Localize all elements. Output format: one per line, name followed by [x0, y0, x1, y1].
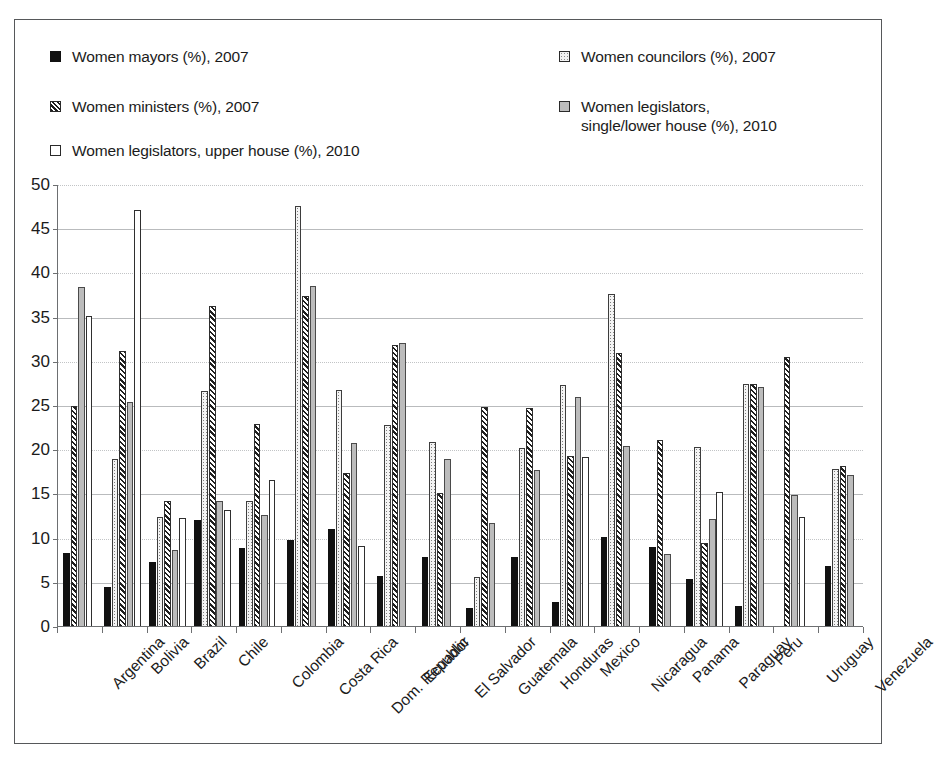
- y-axis-tick-label: 20: [10, 440, 50, 460]
- y-axis-tick-mark: [53, 406, 58, 407]
- white-square-icon: [50, 145, 61, 156]
- legend-item-women-ministers: Women ministers (%), 2007: [50, 97, 259, 116]
- y-axis-tick-mark: [53, 185, 58, 186]
- y-axis-tick-mark: [53, 450, 58, 451]
- legend-item-label: Women ministers (%), 2007: [72, 97, 259, 116]
- y-axis-tick-mark: [53, 583, 58, 584]
- y-axis-tick-label: 25: [10, 396, 50, 416]
- diagonal-hatch-square-icon: [50, 101, 61, 112]
- plot-area: [57, 185, 863, 627]
- legend-item-label: Women legislators, single/lower house (%…: [581, 97, 777, 135]
- y-axis-tick-label: 0: [10, 617, 50, 637]
- y-axis-tick-mark: [53, 539, 58, 540]
- dotted-square-icon: [559, 51, 570, 62]
- y-axis-tick-mark: [53, 318, 58, 319]
- x-axis-label-brazil: Brazil: [190, 633, 230, 673]
- gray-square-icon: [559, 101, 570, 112]
- chart-legend: Women mayors (%), 2007Women ministers (%…: [14, 19, 882, 161]
- y-axis-tick-label: 15: [10, 484, 50, 504]
- y-axis-tick-mark: [53, 494, 58, 495]
- plot-frame: [57, 185, 863, 627]
- y-axis-tick-mark: [53, 273, 58, 274]
- x-axis-labels: ArgentinaBoliviaBrazilChileColombiaCosta…: [57, 627, 863, 737]
- solid-black-square-icon: [50, 51, 61, 62]
- y-axis-tick-label: 45: [10, 219, 50, 239]
- legend-item-label: Women councilors (%), 2007: [581, 47, 776, 66]
- x-axis-label-chile: Chile: [234, 633, 272, 671]
- legend-item-women-legislators-lower-house: Women legislators, single/lower house (%…: [559, 97, 777, 135]
- y-axis-tick-label: 5: [10, 573, 50, 593]
- legend-item-label: Women mayors (%), 2007: [72, 47, 248, 66]
- legend-item-label: Women legislators, upper house (%), 2010: [72, 141, 360, 160]
- y-axis: 05101520253035404550: [4, 185, 50, 627]
- y-axis-tick-mark: [53, 229, 58, 230]
- y-axis-tick-mark: [53, 627, 58, 628]
- legend-item-women-legislators-upper-house: Women legislators, upper house (%), 2010: [50, 141, 360, 160]
- y-axis-tick-label: 10: [10, 529, 50, 549]
- y-axis-tick-label: 30: [10, 352, 50, 372]
- y-axis-tick-label: 50: [10, 175, 50, 195]
- y-axis-tick-label: 35: [10, 308, 50, 328]
- y-axis-tick-mark: [53, 362, 58, 363]
- legend-item-women-councilors: Women councilors (%), 2007: [559, 47, 776, 66]
- legend-item-women-mayors: Women mayors (%), 2007: [50, 47, 248, 66]
- y-axis-tick-label: 40: [10, 263, 50, 283]
- x-axis-label-ecuador: Ecuador: [420, 633, 474, 687]
